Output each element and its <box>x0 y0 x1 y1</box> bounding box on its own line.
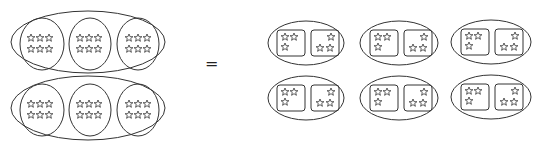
star-icon <box>281 88 335 106</box>
right-group-r2c3 <box>451 75 531 119</box>
left-outer-group-1 <box>11 11 165 73</box>
star-icon <box>465 32 519 50</box>
inner-circle-group <box>69 18 111 70</box>
star-icon <box>27 34 53 52</box>
star-icon <box>125 34 151 52</box>
inner-circle-group <box>69 84 111 136</box>
equal-groups-diagram <box>0 0 545 141</box>
right-group-r2c2 <box>360 76 438 120</box>
star-icon <box>76 34 102 52</box>
right-group-r1c1 <box>268 21 344 65</box>
left-outer-group-2 <box>11 76 165 140</box>
right-group-r1c2 <box>360 21 438 65</box>
star-icon <box>374 33 428 51</box>
equals-sign: = <box>205 56 218 72</box>
inner-circle-group <box>117 84 159 136</box>
star-icon <box>76 100 102 118</box>
inner-circle-group <box>20 84 64 136</box>
star-icon <box>465 87 519 105</box>
right-group-r1c3 <box>451 20 531 64</box>
inner-circle-group <box>117 18 159 70</box>
inner-circle-group <box>20 18 64 70</box>
star-icon <box>125 100 151 118</box>
star-icon <box>27 100 53 118</box>
right-group-r2c1 <box>268 76 344 120</box>
star-icon <box>281 33 335 51</box>
star-icon <box>374 88 428 106</box>
